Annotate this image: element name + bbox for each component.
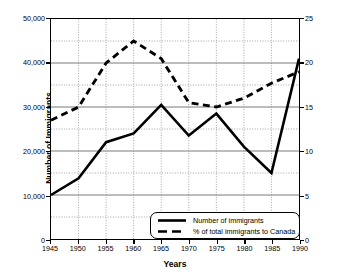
- x-axis-tick-label: 1975: [209, 244, 225, 253]
- legend: Number of immigrants % of total immigran…: [150, 212, 300, 239]
- legend-label: Number of immigrants: [193, 216, 264, 225]
- y-axis-right-tick-label: 15: [305, 102, 313, 111]
- y-axis-right-tick-mark: [300, 151, 304, 152]
- x-axis-tick-mark: [272, 240, 273, 244]
- x-axis-tick-mark: [217, 240, 218, 244]
- x-axis-tick-mark: [133, 240, 134, 244]
- x-axis-tick-label: 1950: [70, 244, 86, 253]
- y-axis-left-tick-mark: [46, 18, 50, 19]
- y-axis-left-tick-mark: [46, 151, 50, 152]
- y-axis-right-tick-label: 5: [305, 191, 309, 200]
- x-axis-tick-mark: [189, 240, 190, 244]
- y-axis-right-tick-mark: [300, 107, 304, 108]
- series-line-percent: [51, 41, 299, 120]
- x-axis-tick-label: 1980: [236, 244, 252, 253]
- y-axis-left-tick-mark: [46, 196, 50, 197]
- x-axis-tick-mark: [244, 240, 245, 244]
- x-axis-tick-label: 1955: [98, 244, 114, 253]
- y-axis-right-tick-mark: [300, 18, 304, 19]
- y-axis-left-tick-label: 10,000: [23, 191, 45, 200]
- x-axis-title: Years: [164, 259, 187, 269]
- x-axis-tick-mark: [300, 240, 301, 244]
- x-axis-tick-mark: [106, 240, 107, 244]
- x-axis-tick-label: 1965: [153, 244, 169, 253]
- y-axis-right-tick-label: 20: [305, 58, 313, 67]
- chart-container: Number of Immigrants % of total Immigran…: [0, 0, 349, 275]
- x-axis-tick-label: 1985: [264, 244, 280, 253]
- legend-item-percent-of-total: % of total immigrants to Canada: [157, 226, 295, 237]
- plot-area: [50, 18, 300, 240]
- y-axis-right-tick-mark: [300, 196, 304, 197]
- x-axis-tick-label: 1970: [181, 244, 197, 253]
- y-axis-left-tick-label: 50,000: [23, 14, 45, 23]
- y-axis-right-tick-label: 25: [305, 14, 313, 23]
- y-axis-right-tick-label: 10: [305, 147, 313, 156]
- y-axis-right-tick-mark: [300, 62, 304, 63]
- x-axis-tick-mark: [161, 240, 162, 244]
- y-axis-left-tick-mark: [46, 107, 50, 108]
- y-axis-left-tick-label: 30,000: [23, 102, 45, 111]
- x-axis-tick-mark: [50, 240, 51, 244]
- legend-item-number-of-immigrants: Number of immigrants: [157, 215, 264, 226]
- y-axis-left-tick-mark: [46, 62, 50, 63]
- legend-key-solid: [157, 216, 187, 225]
- x-axis-tick-label: 1990: [292, 244, 308, 253]
- data-lines: [51, 19, 299, 239]
- x-axis-tick-label: 1960: [125, 244, 141, 253]
- x-axis-tick-mark: [78, 240, 79, 244]
- x-axis-tick-label: 1945: [42, 244, 58, 253]
- y-axis-left-tick-label: 40,000: [23, 58, 45, 67]
- legend-label: % of total immigrants to Canada: [193, 227, 295, 236]
- legend-key-dashed: [157, 227, 187, 236]
- y-axis-left-tick-label: 20,000: [23, 147, 45, 156]
